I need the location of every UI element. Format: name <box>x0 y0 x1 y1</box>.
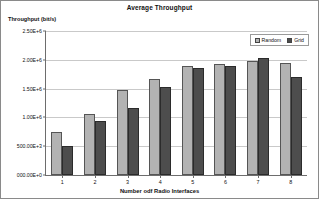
bar-grid[interactable] <box>160 87 171 175</box>
legend-swatch-icon <box>287 38 292 43</box>
bar-random[interactable] <box>51 132 62 175</box>
y-axis-title: Throughput (bit/s) <box>8 16 56 22</box>
y-tick-label: 2.50E+6 <box>23 28 42 34</box>
chart-title: Average Throughput <box>1 4 318 11</box>
x-tick-mark <box>62 175 63 178</box>
x-tick-label: 6 <box>224 179 227 185</box>
x-tick-label: 3 <box>126 179 129 185</box>
x-tick-label: 1 <box>61 179 64 185</box>
bar-random[interactable] <box>280 63 291 175</box>
bar-group: 6 <box>214 31 236 175</box>
bar-group: 7 <box>247 31 269 175</box>
x-tick-label: 8 <box>289 179 292 185</box>
x-tick-label: 2 <box>93 179 96 185</box>
bar-random[interactable] <box>149 79 160 175</box>
bar-group: 2 <box>84 31 106 175</box>
bar-grid[interactable] <box>128 108 139 175</box>
x-tick-mark <box>225 175 226 178</box>
bar-random[interactable] <box>117 90 128 175</box>
legend-item-random: Random <box>255 37 282 43</box>
bar-grid[interactable] <box>95 121 106 175</box>
chart-legend: Random Grid <box>250 34 309 46</box>
bar-grid[interactable] <box>193 68 204 175</box>
legend-label: Random <box>262 37 282 43</box>
legend-item-grid: Grid <box>287 37 304 43</box>
x-axis-title: Number odf Radio Interfaces <box>1 188 318 194</box>
bar-random[interactable] <box>84 114 95 175</box>
bar-random[interactable] <box>214 64 225 175</box>
y-tick-label: 1.50E+6 <box>23 86 42 92</box>
x-tick-label: 4 <box>159 179 162 185</box>
x-tick-mark <box>128 175 129 178</box>
x-tick-label: 7 <box>257 179 260 185</box>
legend-label: Grid <box>294 37 304 43</box>
x-tick-label: 5 <box>191 179 194 185</box>
bar-grid[interactable] <box>225 66 236 175</box>
bar-group: 5 <box>182 31 204 175</box>
bar-group: 4 <box>149 31 171 175</box>
bar-grid[interactable] <box>62 146 73 175</box>
y-tick-label: 2.00E+6 <box>23 57 42 63</box>
plot-area: 000.00E+0500.00E+31.00E+61.50E+62.00E+62… <box>45 31 307 176</box>
y-tick-label: 000.00E+0 <box>17 172 42 178</box>
bar-group: 3 <box>117 31 139 175</box>
bar-group: 1 <box>51 31 73 175</box>
bar-group: 8 <box>280 31 302 175</box>
y-tick-label: 500.00E+3 <box>17 143 42 149</box>
chart-container: Average Throughput Throughput (bit/s) 00… <box>0 0 319 199</box>
bar-grid[interactable] <box>291 77 302 175</box>
bar-groups: 12345678 <box>46 31 307 175</box>
bar-grid[interactable] <box>258 58 269 175</box>
x-tick-mark <box>95 175 96 178</box>
x-tick-mark <box>291 175 292 178</box>
x-tick-mark <box>193 175 194 178</box>
x-tick-mark <box>160 175 161 178</box>
bar-random[interactable] <box>247 61 258 175</box>
y-tick-label: 1.00E+6 <box>23 114 42 120</box>
legend-swatch-icon <box>255 38 260 43</box>
bar-random[interactable] <box>182 66 193 175</box>
x-tick-mark <box>258 175 259 178</box>
